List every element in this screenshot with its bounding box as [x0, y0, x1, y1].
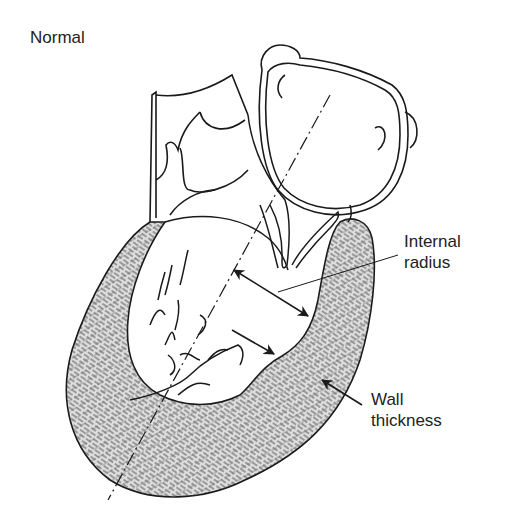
endocardium-arrow	[232, 330, 274, 354]
heart-diagram	[0, 0, 507, 523]
ventricle-wall	[66, 219, 374, 497]
internal-radius-arrow	[234, 270, 308, 316]
aorta	[150, 75, 248, 222]
left-atrium	[259, 45, 417, 215]
